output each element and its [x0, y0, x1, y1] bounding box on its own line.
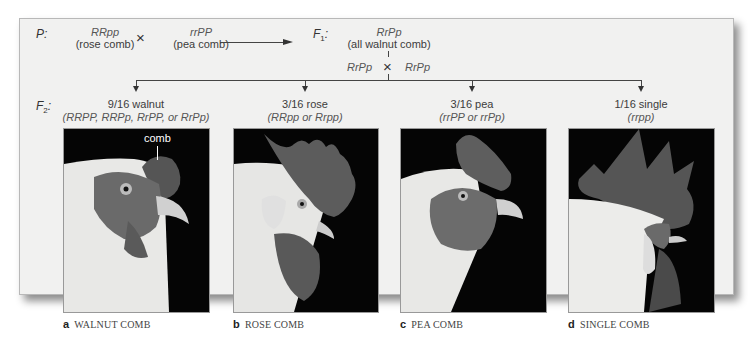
f2-ratio-pea: 3/16 pea	[451, 98, 494, 111]
f2-genotypes-rose: (RRpp or Rrpp)	[267, 111, 342, 124]
f1-connector	[388, 51, 389, 57]
f2-ratio-rose: 3/16 rose	[282, 98, 328, 111]
parent1-phenotype: (rose comb)	[76, 38, 135, 51]
p-generation-label: P:	[36, 27, 47, 41]
down-arrow-icon	[133, 86, 139, 92]
f1-phenotype: (all walnut comb)	[347, 38, 430, 51]
caption-single: dSINGLE COMB	[568, 318, 650, 330]
f2-genotypes-single: (rrpp)	[628, 111, 655, 124]
walnut-comb-photo: comb	[63, 128, 210, 313]
down-arrow-icon	[638, 86, 644, 92]
branch-line	[136, 80, 642, 81]
arrow-line	[220, 42, 286, 43]
f2-genotypes-pea: (rrPP or rrPp)	[439, 111, 505, 124]
self-cross-left: RrPp	[347, 61, 372, 74]
down-arrow-icon	[302, 86, 308, 92]
rose-comb-photo	[233, 128, 379, 313]
f2-genotypes-walnut: (RRPP, RRPp, RrPP, or RrPp)	[63, 111, 210, 124]
parent2-phenotype: (pea comb)	[173, 38, 229, 51]
comb-pointer-line	[157, 146, 158, 160]
self-cross-symbol: ×	[383, 59, 392, 74]
right-arrow-icon	[283, 39, 293, 45]
pea-comb-photo	[400, 128, 547, 313]
comb-annotation: comb	[144, 132, 171, 144]
single-comb-photo	[568, 128, 715, 313]
caption-pea: cPEA COMB	[400, 318, 463, 330]
self-cross-right: RrPp	[405, 61, 430, 74]
f2-ratio-walnut: 9/16 walnut	[108, 98, 164, 111]
caption-rose: bROSE COMB	[233, 318, 304, 330]
f2-ratio-single: 1/16 single	[614, 98, 667, 111]
cross-symbol: ×	[136, 30, 145, 45]
down-arrow-icon	[469, 86, 475, 92]
caption-walnut: aWALNUT COMB	[63, 318, 151, 330]
f1-generation-label: F1:	[313, 27, 328, 43]
f2-generation-label: F2:	[36, 99, 51, 115]
